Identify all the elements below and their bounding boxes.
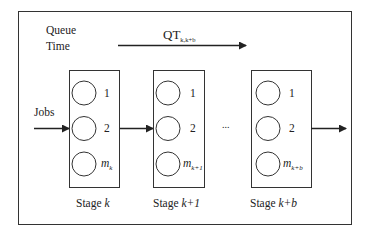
stage-label: Stage k: [76, 197, 110, 210]
machine-circle: [156, 81, 180, 105]
machine-circle: [256, 152, 280, 176]
machine-circle: [256, 81, 280, 105]
machine-circle: [72, 81, 96, 105]
machine-label-sub: k: [109, 164, 113, 172]
machine-label: 2: [190, 122, 196, 134]
stage-k-plus-b: 1 2 mk+b Stage k+b: [250, 71, 312, 211]
machine-label: 1: [104, 87, 110, 99]
queue-time-diagram: Queue Time QTk,k+b Jobs 1 2 mk Stage k 1…: [0, 0, 368, 236]
machine-circle: [256, 117, 280, 141]
queue-time-label-line1: Queue: [46, 24, 76, 36]
jobs-label: Jobs: [34, 106, 55, 118]
qt-label: QTk,k+b: [163, 27, 195, 43]
stage-label: Stage k+1: [153, 197, 200, 210]
machine-label: 2: [289, 122, 295, 134]
ellipsis: ...: [222, 119, 230, 130]
stage-label: Stage k+b: [250, 197, 297, 210]
stage-k-plus-1: 1 2 mk+1 Stage k+1: [153, 71, 205, 211]
stage-k: 1 2 mk Stage k: [70, 71, 120, 211]
qt-label-sub: k,k+b: [180, 36, 195, 43]
machine-label: 2: [104, 122, 110, 134]
machine-circle: [72, 117, 96, 141]
machine-label-main: m: [283, 157, 291, 169]
machine-label-main: m: [101, 157, 109, 169]
machine-label: 1: [190, 87, 196, 99]
machine-circle: [72, 152, 96, 176]
machine-label-sub: k+1: [191, 164, 202, 172]
machine-label: mk+b: [283, 157, 303, 172]
machine-label-sub: k+b: [291, 164, 303, 172]
machine-circle: [156, 152, 180, 176]
machine-label: 1: [289, 87, 295, 99]
queue-time-label-line2: Time: [46, 40, 70, 52]
qt-label-main: QT: [163, 27, 180, 42]
machine-label-main: m: [183, 157, 191, 169]
machine-label: mk: [101, 157, 113, 172]
machine-label: mk+1: [183, 157, 203, 172]
machine-circle: [156, 117, 180, 141]
